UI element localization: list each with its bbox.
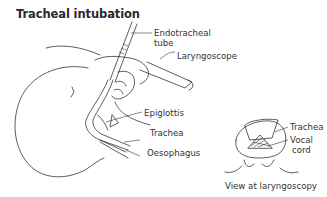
airway-structures: [86, 80, 150, 158]
laryngoscopy-view: [225, 119, 298, 173]
label-endotracheal-tube-line2: tube: [154, 38, 174, 48]
label-epiglottis: Epiglottis: [144, 108, 184, 118]
label-vocal-cord-line1: Vocal: [290, 135, 313, 145]
inset-caption: View at laryngoscopy: [225, 181, 317, 191]
label-vocal-cord-line2: cord: [292, 145, 311, 155]
label-oesophagus: Oesophagus: [147, 148, 200, 158]
label-endotracheal-tube-line1: Endotracheal: [154, 28, 211, 38]
label-trachea: Trachea: [150, 128, 184, 138]
endotracheal-tube: [110, 22, 137, 82]
label-laryngoscope: Laryngoscope: [177, 51, 237, 61]
label-inset-trachea: Trachea: [290, 122, 324, 132]
hand: [95, 56, 148, 99]
